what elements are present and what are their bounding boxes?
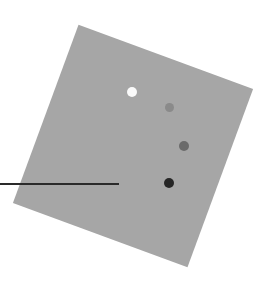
pointer-line bbox=[0, 183, 119, 185]
rotated-gray-square bbox=[12, 25, 252, 268]
stimulus-stage bbox=[0, 0, 272, 283]
dot-white bbox=[127, 87, 137, 97]
dot-light-gray bbox=[165, 103, 174, 112]
dot-mid-gray bbox=[179, 141, 189, 151]
dot-dark bbox=[164, 178, 174, 188]
